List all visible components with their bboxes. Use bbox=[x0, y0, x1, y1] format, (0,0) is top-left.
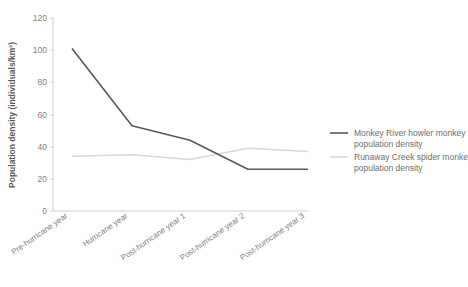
y-tick-label: 100 bbox=[33, 45, 47, 55]
chart-legend: Monkey River howler monkey population de… bbox=[330, 128, 468, 173]
y-tick-label: 40 bbox=[38, 142, 48, 152]
line-chart: Population density (individuals/km²) 120… bbox=[0, 0, 468, 287]
y-tick-label: 20 bbox=[38, 174, 48, 184]
chart-canvas: Population density (individuals/km²) 120… bbox=[0, 0, 468, 287]
series-line-spider-monkey bbox=[72, 148, 308, 159]
x-axis-tick-labels: Pre-hurricane year Hurricane year Post-h… bbox=[10, 211, 307, 263]
x-tick-label: Hurricane year bbox=[81, 211, 129, 249]
y-tick-label: 0 bbox=[42, 206, 47, 216]
x-tick-label: Post-hurricane year 3 bbox=[238, 211, 306, 263]
legend-label-howler-monkey-line2: population density bbox=[354, 139, 423, 149]
y-axis-tick-labels: 120 100 80 60 40 20 0 bbox=[33, 13, 47, 216]
legend-label-spider-monkey-line2: population density bbox=[354, 163, 423, 173]
y-tick-label: 60 bbox=[38, 110, 48, 120]
y-tick-label: 120 bbox=[33, 13, 47, 23]
x-tick-label: Post-hurricane year 2 bbox=[178, 211, 246, 263]
x-tick-label: Pre-hurricane year bbox=[10, 211, 70, 257]
series-line-howler-monkey bbox=[72, 49, 308, 170]
legend-label-howler-monkey-line1: Monkey River howler monkey bbox=[354, 128, 466, 138]
y-axis-title: Population density (individuals/km²) bbox=[7, 42, 17, 188]
y-tick-label: 80 bbox=[38, 77, 48, 87]
legend-label-spider-monkey-line1: Runaway Creek spider monkey bbox=[354, 152, 468, 162]
